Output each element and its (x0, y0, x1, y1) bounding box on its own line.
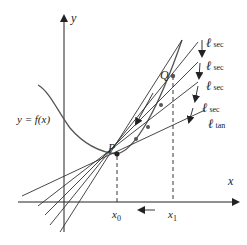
secant-label-2: ℓsec (206, 58, 224, 73)
curve-f (38, 40, 182, 154)
intermediate-point (159, 103, 163, 107)
curve-label: y = f(x) (16, 113, 50, 126)
x1-label: x1 (167, 208, 177, 223)
secant-label-3: ℓsec (206, 78, 224, 93)
secant-tangent-diagram: y x y = f(x) P Q x0 x1 ℓsec ℓsec ℓsec ℓs… (0, 0, 247, 245)
tangent-label: ℓtan (208, 116, 225, 131)
label-Q: Q (160, 68, 169, 82)
point-Q (171, 74, 175, 78)
intermediate-point (146, 125, 150, 129)
x-axis-label: x (227, 174, 234, 188)
line-bundle (22, 40, 205, 232)
secant-label-4: ℓsec (202, 100, 220, 115)
x0-label: x0 (111, 208, 121, 223)
label-P: P (107, 141, 116, 155)
intermediate-point (134, 137, 138, 141)
y-axis-label: y (70, 11, 77, 25)
secant-label-1: ℓsec (206, 35, 224, 50)
